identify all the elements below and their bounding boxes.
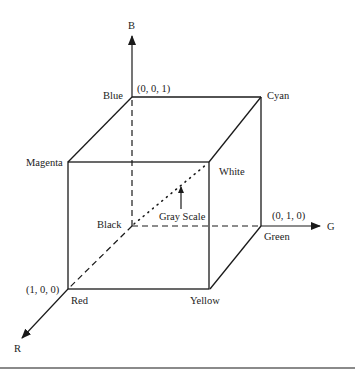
rgb-color-cube-diagram: B G R Blue (0, 0, 1) Cyan Magenta White … xyxy=(0,0,355,371)
r-axis-label: R xyxy=(14,343,21,354)
b-axis-label: B xyxy=(128,20,135,31)
r-axis xyxy=(22,289,68,338)
edge-white-cyan xyxy=(209,97,261,162)
vertex-label-cyan: Cyan xyxy=(267,90,290,101)
vertex-label-blue: Blue xyxy=(103,90,123,101)
edge-magenta-blue xyxy=(68,97,132,162)
vertex-label-red: Red xyxy=(71,295,89,306)
vertex-label-black: Black xyxy=(97,219,122,230)
gray-scale-label: Gray Scale xyxy=(159,211,206,222)
coord-label-blue: (0, 0, 1) xyxy=(137,83,171,95)
vertex-label-magenta: Magenta xyxy=(26,157,63,168)
vertex-label-green: Green xyxy=(264,231,290,242)
edge-yellow-green xyxy=(210,226,261,289)
g-axis-label: G xyxy=(327,221,335,232)
bottom-divider xyxy=(0,367,355,369)
coord-label-green: (0, 1, 0) xyxy=(272,210,306,222)
vertex-label-yellow: Yellow xyxy=(190,295,220,306)
hidden-edge-black-red xyxy=(68,226,132,289)
vertex-label-white: White xyxy=(219,166,245,177)
coord-label-red: (1, 0, 0) xyxy=(26,284,60,296)
